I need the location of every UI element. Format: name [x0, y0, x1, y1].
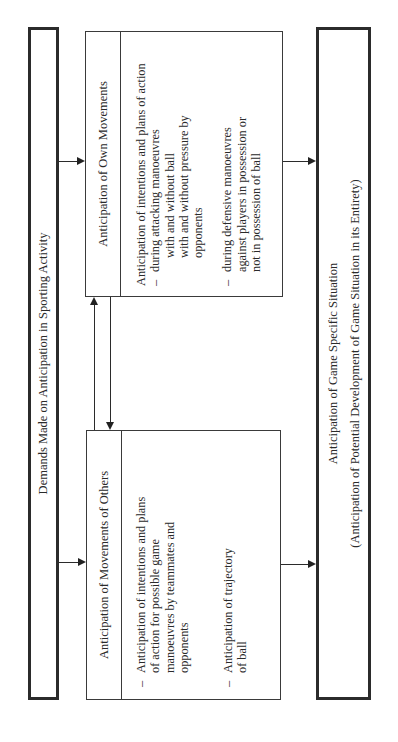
text-line: with and without ball — [163, 115, 177, 272]
text-line: of action for possible game — [148, 497, 162, 673]
text-line: during attacking manoeuvres — [148, 115, 162, 272]
game-situation-box: Anticipation of Game Specific Situation … — [316, 27, 371, 700]
text-line: opponents — [177, 497, 191, 673]
own-movements-title: Anticipation of Own Movements — [86, 32, 121, 296]
demands-box: Demands Made on Anticipation in Sporting… — [28, 27, 59, 700]
text-line: not in possession of ball — [249, 117, 263, 272]
text-line: opponents — [191, 115, 205, 272]
others-body: – Anticipation of intentions and plans o… — [134, 437, 279, 687]
own-intro: Anticipation of intentions and plans of … — [134, 38, 148, 286]
bullet-dash: – — [134, 673, 191, 687]
own-item-defensive: – during defensive manoeuvres against pl… — [220, 38, 263, 286]
game-situation-subtitle: (Anticipation of Potential Development o… — [344, 179, 366, 547]
own-movements-box: Anticipation of Own Movements Anticipati… — [85, 31, 283, 297]
text-line: manoeuvres by teammates and — [163, 497, 177, 673]
demands-label: Demands Made on Anticipation in Sporting… — [31, 233, 56, 495]
own-movements-body: Anticipation of intentions and plans of … — [134, 38, 292, 286]
others-box: Anticipation of Movements of Others – An… — [86, 430, 281, 700]
bullet-dash: – — [220, 272, 263, 286]
text-line: against players in possession or — [235, 117, 249, 272]
text-line: Anticipation of trajectory — [221, 548, 235, 673]
own-item-attacking: – during attacking manoeuvres with and w… — [148, 38, 205, 286]
text-line: with and without pressure by — [177, 115, 191, 272]
others-title: Anticipation of Movements of Others — [87, 431, 122, 699]
others-item-trajectory: – Anticipation of trajectory of ball — [221, 437, 250, 687]
bullet-dash: – — [148, 272, 205, 286]
text-line: Anticipation of intentions and plans — [134, 497, 148, 673]
game-situation-title: Anticipation of Game Specific Situation — [322, 263, 344, 464]
text-line: of ball — [235, 548, 249, 673]
others-item-intentions: – Anticipation of intentions and plans o… — [134, 437, 191, 687]
text-line: during defensive manoeuvres — [220, 117, 234, 272]
diagram-canvas: Demands Made on Anticipation in Sporting… — [0, 0, 398, 742]
bullet-dash: – — [221, 673, 250, 687]
